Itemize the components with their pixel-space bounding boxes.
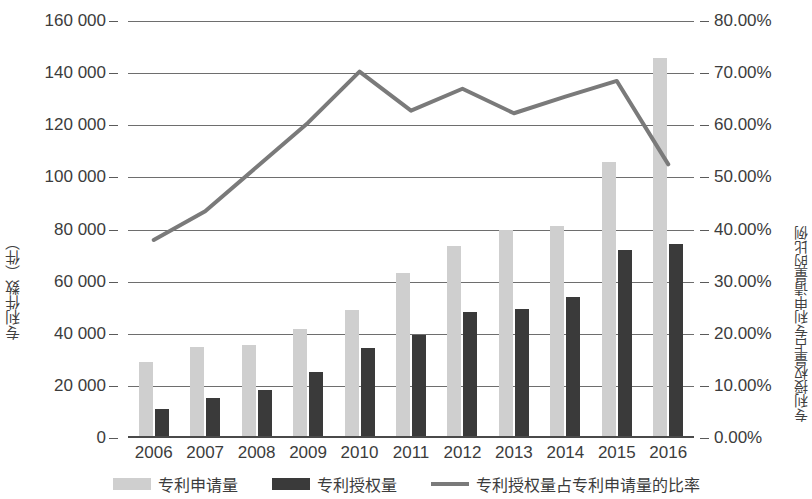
x-axis-tick-label: 2008 <box>238 443 276 463</box>
y-axis-right-tick-label: 40.00% <box>714 221 772 238</box>
y-axis-left-tick-label: 60 000 <box>54 273 106 290</box>
y-axis-left-tick-label: 80 000 <box>54 221 106 238</box>
y-axis-left-tick-mark <box>109 438 118 439</box>
x-axis-tick-label: 2010 <box>341 443 379 463</box>
y-axis-right-title: 专利授权量占专利申请量的比例 <box>792 82 812 422</box>
y-axis-right-tick-mark <box>700 177 709 178</box>
y-axis-left-tick-label: 0 <box>97 429 106 446</box>
y-axis-right-tick-mark <box>700 73 709 74</box>
y-axis-left-tick-mark <box>109 125 118 126</box>
x-axis-tick-label: 2006 <box>135 443 173 463</box>
y-axis-left-ticks: 020 00040 00060 00080 000100 000120 0001… <box>28 0 118 440</box>
x-axis-tick-label: 2007 <box>186 443 224 463</box>
y-axis-right-tick-mark <box>700 282 709 283</box>
legend-item[interactable]: 专利授权量 <box>272 472 397 496</box>
y-axis-left-tick-mark <box>109 73 118 74</box>
y-axis-right-tick-mark <box>700 21 709 22</box>
y-axis-right-tick-mark <box>700 438 709 439</box>
y-axis-left-tick-mark <box>109 386 118 387</box>
y-axis-left-tick-label: 20 000 <box>54 377 106 394</box>
y-axis-right-tick-mark <box>700 334 709 335</box>
legend-label: 专利授权量 <box>317 472 397 496</box>
y-axis-left-title: 专利件数（件） <box>2 150 23 340</box>
y-axis-left-tick-mark <box>109 177 118 178</box>
x-axis-tick-label: 2016 <box>649 443 687 463</box>
x-axis-tick-label: 2011 <box>393 443 430 463</box>
y-axis-left-tick-mark <box>109 21 118 22</box>
legend-bar-swatch-icon <box>272 478 310 490</box>
ratio-line-path <box>154 72 669 240</box>
y-axis-right-tick-label: 50.00% <box>714 168 772 185</box>
legend-item[interactable]: 专利授权量占专利申请量的比率 <box>431 472 700 496</box>
y-axis-left-tick-mark <box>109 282 118 283</box>
y-axis-right-ticks: 0.00%10.00%20.00%30.00%40.00%50.00%60.00… <box>700 0 786 440</box>
y-axis-right-tick-mark <box>700 386 709 387</box>
x-axis-baseline <box>128 436 694 438</box>
x-axis-tick-label: 2015 <box>598 443 636 463</box>
y-axis-right-tick-label: 30.00% <box>714 273 772 290</box>
y-axis-left-tick-label: 120 000 <box>45 116 106 133</box>
x-axis-tick-label: 2012 <box>444 443 482 463</box>
y-axis-left-tick-label: 100 000 <box>45 168 106 185</box>
y-axis-left-tick-label: 140 000 <box>45 64 106 81</box>
y-axis-right-tick-label: 70.00% <box>714 64 772 81</box>
y-axis-left-tick-label: 40 000 <box>54 325 106 342</box>
plot-area <box>128 21 694 438</box>
patent-statistics-chart: 专利件数（件） 专利授权量占专利申请量的比例 020 00040 00060 0… <box>0 0 812 499</box>
legend-bar-swatch-icon <box>113 478 151 490</box>
y-axis-right-tick-label: 60.00% <box>714 116 772 133</box>
legend-label: 专利申请量 <box>158 472 238 496</box>
y-axis-right-tick-label: 10.00% <box>714 377 772 394</box>
y-axis-left-tick-mark <box>109 334 118 335</box>
y-axis-right-tick-label: 80.00% <box>714 12 772 29</box>
legend-item[interactable]: 专利申请量 <box>113 472 238 496</box>
y-axis-right-tick-mark <box>700 125 709 126</box>
x-axis-tick-label: 2014 <box>546 443 584 463</box>
legend-line-swatch-icon <box>431 482 469 486</box>
chart-legend: 专利申请量专利授权量专利授权量占专利申请量的比率 <box>0 471 812 497</box>
y-axis-right-tick-label: 20.00% <box>714 325 772 342</box>
x-axis-tick-label: 2013 <box>495 443 533 463</box>
x-axis-tick-label: 2009 <box>289 443 327 463</box>
y-axis-right-tick-mark <box>700 230 709 231</box>
x-axis-labels: 2006200720082009201020112012201320142015… <box>128 443 694 467</box>
y-axis-left-tick-label: 160 000 <box>45 12 106 29</box>
y-axis-right-tick-label: 0.00% <box>714 429 762 446</box>
ratio-line-series <box>128 21 694 438</box>
legend-label: 专利授权量占专利申请量的比率 <box>476 472 700 496</box>
y-axis-left-tick-mark <box>109 230 118 231</box>
